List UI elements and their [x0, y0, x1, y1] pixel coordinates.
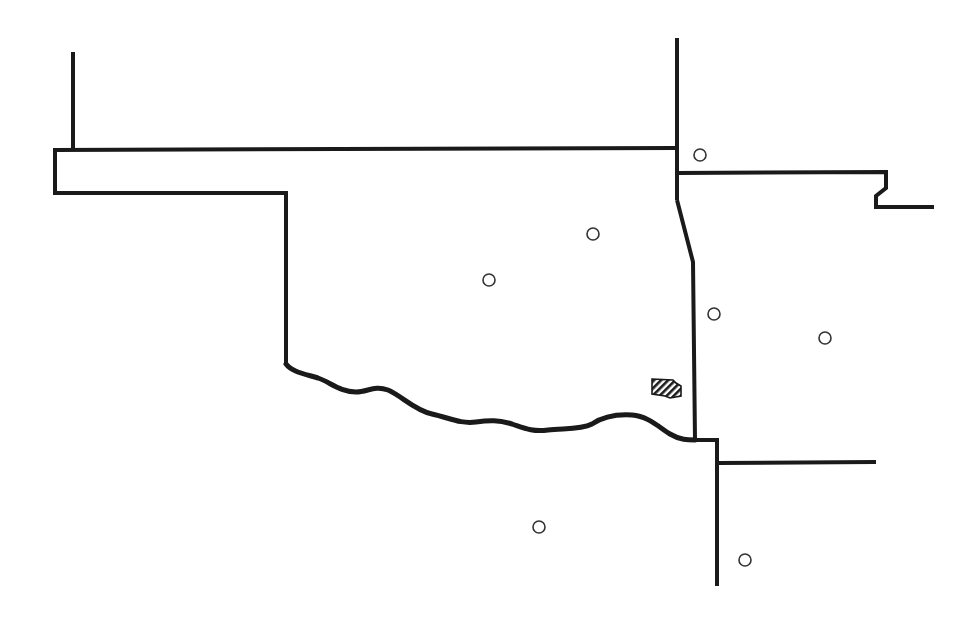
oklahoma-map [0, 0, 978, 617]
site-marker-icon [819, 332, 831, 344]
site-marker-icon [483, 274, 495, 286]
red-river-border [286, 364, 695, 440]
site-marker-icon [533, 521, 545, 533]
site-marker-icon [587, 228, 599, 240]
border-oklahoma-north-west [55, 148, 677, 364]
border-oklahoma-east [677, 200, 717, 586]
site-marker-icon [694, 149, 706, 161]
border-mo-ar [677, 172, 934, 207]
hatched-region [652, 379, 681, 398]
border-ar-la [719, 462, 876, 463]
site-marker-icon [708, 308, 720, 320]
site-markers [483, 149, 831, 566]
site-marker-icon [739, 554, 751, 566]
